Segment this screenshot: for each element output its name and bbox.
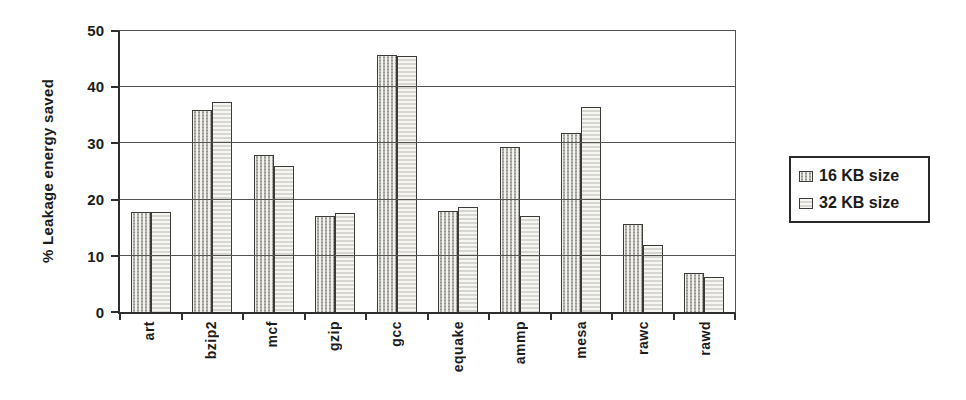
x-label-cell-mesa: mesa [551,321,613,396]
plot-area [118,30,736,314]
x-category-label: rawd [698,321,712,356]
y-tick-mark [111,199,118,201]
x-label-cell-rawc: rawc [612,321,674,396]
x-category-label: mesa [574,321,588,359]
bar-group-gzip [305,31,367,312]
bar-gcc-32kb [397,56,417,312]
x-label-cell-equake: equake [427,321,489,396]
x-tick-mark [119,314,121,320]
x-category-label: art [142,321,156,340]
gridline [120,255,735,256]
x-label-cell-gcc: gcc [365,321,427,396]
bar-group-gcc [366,31,428,312]
bar-bzip2-32kb [212,102,232,312]
bar-group-equake [428,31,490,312]
x-axis-labels: artbzip2mcfgzipgccequakeammpmesarawcrawd [118,321,736,396]
x-tick-mark [734,314,736,320]
legend: 16 KB size32 KB size [789,156,930,223]
bar-group-bzip2 [182,31,244,312]
x-tick-mark [304,314,306,320]
x-category-label: gcc [389,321,403,347]
bar-gzip-16kb [315,216,335,312]
bar-mcf-16kb [254,155,274,312]
x-tick-mark [611,314,613,320]
x-tick-mark [181,314,183,320]
bar-group-mcf [243,31,305,312]
legend-label: 16 KB size [819,167,899,185]
bar-gcc-16kb [377,55,397,312]
bar-bzip2-16kb [192,110,212,312]
bar-gzip-32kb [335,213,355,312]
bar-art-16kb [131,212,151,312]
bar-mcf-32kb [274,166,294,312]
bar-ammp-32kb [520,216,540,312]
bar-rawc-16kb [623,224,643,312]
x-tick-mark [488,314,490,320]
y-tick-mark [111,86,118,88]
bar-group-rawc [612,31,674,312]
bar-mesa-16kb [561,133,581,312]
bar-group-art [120,31,182,312]
legend-entry-32kb: 32 KB size [799,194,920,212]
bar-rawd-16kb [684,273,704,312]
bars-layer [120,31,735,312]
y-tick-mark [111,311,118,313]
y-tick-label: 10 [87,248,104,263]
bar-group-mesa [551,31,613,312]
gridline [120,142,735,143]
x-tick-mark [242,314,244,320]
x-category-label: gzip [327,321,341,351]
x-category-label: mcf [265,321,279,347]
bar-group-rawd [674,31,736,312]
x-label-cell-mcf: mcf [242,321,304,396]
x-label-cell-bzip2: bzip2 [180,321,242,396]
y-tick-mark [111,30,118,32]
x-label-cell-gzip: gzip [303,321,365,396]
x-label-cell-rawd: rawd [674,321,736,396]
y-tick-label: 20 [87,192,104,207]
x-label-cell-ammp: ammp [489,321,551,396]
legend-label: 32 KB size [819,194,899,212]
legend-swatch-32kb [799,198,813,209]
x-tick-mark [550,314,552,320]
x-tick-mark [365,314,367,320]
bar-equake-32kb [458,207,478,312]
bar-equake-16kb [438,211,458,312]
y-tick-label: 30 [87,135,104,150]
y-axis-tick-labels: 01020304050 [0,30,104,312]
x-label-cell-art: art [118,321,180,396]
x-category-label: bzip2 [204,321,218,359]
x-category-label: rawc [636,321,650,355]
bar-art-32kb [151,212,171,312]
bar-rawd-32kb [704,277,724,312]
leakage-energy-chart: % Leakage energy saved 01020304050 artbz… [0,0,966,400]
x-tick-mark [673,314,675,320]
legend-swatch-16kb [799,171,813,182]
x-tick-mark [427,314,429,320]
gridline [120,86,735,87]
bar-mesa-32kb [581,107,601,312]
y-tick-mark [111,255,118,257]
y-tick-label: 0 [96,305,104,320]
x-category-label: equake [451,321,465,372]
y-tick-label: 40 [87,79,104,94]
y-tick-mark [111,142,118,144]
legend-entry-16kb: 16 KB size [799,167,920,185]
bar-ammp-16kb [500,147,520,312]
gridline [120,199,735,200]
bar-group-ammp [489,31,551,312]
x-category-label: ammp [513,321,527,364]
y-tick-label: 50 [87,23,104,38]
